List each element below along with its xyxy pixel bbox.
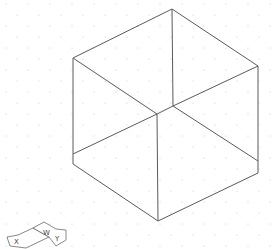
grid-dot — [104, 146, 105, 147]
grid-dot — [137, 69, 138, 70]
grid-dot — [27, 3, 28, 4]
grid-dot — [38, 190, 39, 191]
grid-dot — [137, 113, 138, 114]
grid-dot — [49, 69, 50, 70]
grid-dot — [181, 69, 182, 70]
cube-edge — [73, 114, 157, 154]
grid-dot — [5, 245, 6, 246]
grid-dot — [27, 25, 28, 26]
grid-dot — [225, 113, 226, 114]
grid-dot — [203, 179, 204, 180]
grid-dot — [236, 80, 237, 81]
grid-dot — [148, 146, 149, 147]
grid-dot — [170, 190, 171, 191]
grid-dot — [159, 47, 160, 48]
grid-dot — [203, 69, 204, 70]
grid-dot — [71, 91, 72, 92]
grid-dot — [71, 223, 72, 224]
grid-dot — [170, 234, 171, 235]
grid-dot — [126, 190, 127, 191]
grid-dot — [126, 212, 127, 213]
grid-dot — [269, 69, 270, 70]
grid-dot — [181, 245, 182, 246]
grid-dot — [60, 168, 61, 169]
grid-dot — [104, 212, 105, 213]
grid-dot — [225, 3, 226, 4]
grid-dot — [49, 245, 50, 246]
grid-dot — [192, 124, 193, 125]
grid-dot — [60, 14, 61, 15]
grid-dot — [236, 168, 237, 169]
grid-dot — [104, 234, 105, 235]
grid-dot — [38, 80, 39, 81]
grid-dot — [236, 102, 237, 103]
grid-dot — [258, 124, 259, 125]
grid-dot — [82, 212, 83, 213]
grid-dot — [38, 168, 39, 169]
grid-dot — [60, 190, 61, 191]
cube-edge — [73, 58, 157, 114]
grid-dot — [82, 102, 83, 103]
grid-dot — [192, 168, 193, 169]
grid-dot — [181, 201, 182, 202]
grid-dot — [148, 190, 149, 191]
grid-dot — [214, 80, 215, 81]
grid-dot — [170, 14, 171, 15]
grid-dot — [247, 47, 248, 48]
grid-dot — [214, 102, 215, 103]
grid-dot — [104, 14, 105, 15]
grid-dot — [269, 179, 270, 180]
grid-dot — [247, 201, 248, 202]
grid-dot — [247, 91, 248, 92]
grid-dot — [93, 245, 94, 246]
grid-dot — [5, 25, 6, 26]
grid-dot — [71, 3, 72, 4]
grid-dot — [269, 47, 270, 48]
grid-dot — [115, 179, 116, 180]
grid-dot — [181, 25, 182, 26]
grid-dot — [71, 69, 72, 70]
grid-dot — [192, 102, 193, 103]
grid-dot — [5, 223, 6, 224]
grid-dot — [126, 102, 127, 103]
grid-dot — [148, 168, 149, 169]
grid-dot — [16, 36, 17, 37]
drawing-canvas[interactable]: X Y W — [0, 0, 278, 249]
grid-dot — [5, 135, 6, 136]
grid-dot — [137, 47, 138, 48]
model-viewport[interactable]: X Y W — [0, 0, 278, 249]
grid-dot — [203, 245, 204, 246]
cube-edge — [173, 66, 258, 106]
grid-dot — [27, 69, 28, 70]
wireframe-cube[interactable] — [73, 9, 258, 221]
grid-dot — [269, 3, 270, 4]
grid-dot — [5, 179, 6, 180]
grid-dot — [236, 14, 237, 15]
grid-dot — [126, 14, 127, 15]
grid-dot — [269, 135, 270, 136]
grid-dot — [203, 47, 204, 48]
grid-dot — [159, 223, 160, 224]
grid-dot — [49, 157, 50, 158]
grid-dot — [38, 58, 39, 59]
grid-dot — [159, 25, 160, 26]
grid-dot — [258, 102, 259, 103]
ucs-y-label: Y — [54, 235, 60, 243]
grid-dot — [5, 201, 6, 202]
grid-dot — [192, 212, 193, 213]
grid-dot — [126, 234, 127, 235]
grid-dot — [258, 36, 259, 37]
ucs-icon[interactable]: X Y W — [7, 222, 66, 248]
grid-dot — [16, 212, 17, 213]
grid-dot — [214, 212, 215, 213]
grid-dot — [148, 58, 149, 59]
grid-dot — [27, 223, 28, 224]
grid-dot — [49, 223, 50, 224]
grid-dot — [170, 168, 171, 169]
grid-dot — [203, 223, 204, 224]
dot-grid — [5, 3, 270, 246]
grid-dot — [27, 135, 28, 136]
grid-dot — [236, 190, 237, 191]
grid-dot — [192, 190, 193, 191]
grid-dot — [159, 113, 160, 114]
